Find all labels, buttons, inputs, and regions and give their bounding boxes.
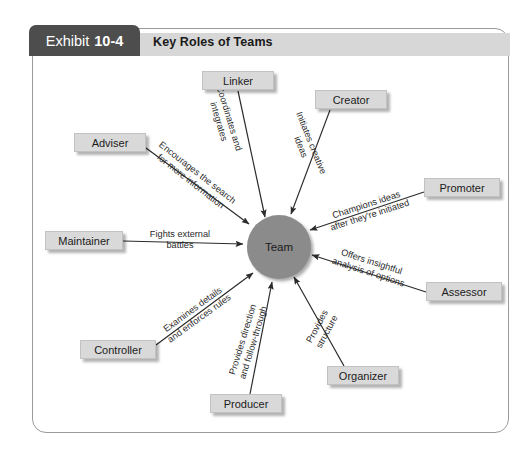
role-node-controller[interactable]: Controller xyxy=(80,340,156,359)
team-center-label: Team xyxy=(265,241,293,253)
role-node-label-controller: Controller xyxy=(94,344,142,356)
role-node-label-organizer: Organizer xyxy=(339,370,387,382)
role-node-label-creator: Creator xyxy=(333,94,370,106)
role-node-producer[interactable]: Producer xyxy=(210,394,282,413)
role-node-label-maintainer: Maintainer xyxy=(58,235,109,247)
role-node-organizer[interactable]: Organizer xyxy=(327,366,399,385)
exhibit-title: Key Roles of Teams xyxy=(153,35,273,49)
exhibit-tab-prefix: Exhibit xyxy=(46,33,90,49)
role-node-creator[interactable]: Creator xyxy=(315,90,387,109)
role-node-linker[interactable]: Linker xyxy=(202,71,274,90)
exhibit-tab-content: Exhibit 10-4 xyxy=(29,25,140,56)
role-node-label-promoter: Promoter xyxy=(439,182,484,194)
role-node-maintainer[interactable]: Maintainer xyxy=(45,231,123,250)
role-node-promoter[interactable]: Promoter xyxy=(424,178,500,197)
role-node-adviser[interactable]: Adviser xyxy=(74,133,146,152)
role-node-assessor[interactable]: Assessor xyxy=(426,282,502,301)
role-node-label-assessor: Assessor xyxy=(441,286,486,298)
exhibit-tab-number: 10-4 xyxy=(94,33,123,49)
role-node-label-linker: Linker xyxy=(223,75,253,87)
role-node-label-adviser: Adviser xyxy=(92,137,129,149)
role-node-label-producer: Producer xyxy=(224,398,269,410)
exhibit-tab: Exhibit 10-4 xyxy=(29,25,140,56)
team-center-node[interactable]: Team xyxy=(247,215,311,279)
